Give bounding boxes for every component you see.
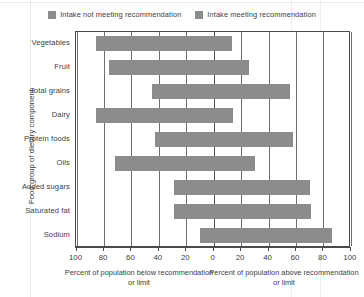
- x-tick--60: [130, 247, 131, 251]
- category-label-dairy: Dairy: [0, 110, 70, 119]
- bar-total-grains: [152, 84, 291, 99]
- category-label-saturated-fat: Saturated fat: [0, 206, 70, 215]
- chart-row: Added sugars: [76, 176, 349, 200]
- legend-item-not-meeting: Intake not meeting recommendation: [48, 10, 181, 19]
- chart-row: Oils: [76, 152, 349, 176]
- legend-item-meeting: Intake meeting recommendation: [195, 10, 315, 19]
- x-tick--20: [185, 247, 186, 251]
- chart-legend: Intake not meeting recommendation Intake…: [0, 10, 364, 19]
- category-label-total-grains: Total grains: [0, 86, 70, 95]
- x-tick-40: [268, 247, 269, 251]
- category-label-fruit: Fruit: [0, 62, 70, 71]
- category-label-added-sugars: Added sugars: [0, 182, 70, 191]
- x-axis-caption-right: Percent of population above recommendati…: [209, 268, 359, 288]
- bar-protein-foods: [155, 132, 294, 147]
- chart-row: Protein foods: [76, 128, 349, 152]
- x-axis-caption-left: Percent of population below recommendati…: [64, 268, 214, 288]
- bar-added-sugars: [174, 180, 310, 195]
- x-tick--100: [76, 247, 77, 251]
- chart-row: Vegetables: [76, 32, 349, 56]
- x-tick-100: [350, 247, 351, 251]
- plot-area: VegetablesFruitTotal grainsDairyProtein …: [75, 31, 350, 247]
- x-tick-label--80: 80: [90, 253, 116, 262]
- x-tick-20: [240, 247, 241, 251]
- chart-row: Sodium: [76, 224, 349, 248]
- x-tick--40: [158, 247, 159, 251]
- category-label-protein-foods: Protein foods: [0, 134, 70, 143]
- bar-fruit: [109, 60, 249, 75]
- bar-saturated-fat: [174, 204, 311, 219]
- bar-dairy: [96, 108, 233, 123]
- x-tick--80: [103, 247, 104, 251]
- x-tick-label--20: 20: [172, 253, 198, 262]
- category-label-vegetables: Vegetables: [0, 38, 70, 47]
- bar-sodium: [200, 228, 332, 243]
- x-tick-80: [322, 247, 323, 251]
- x-tick-label-80: 80: [309, 253, 335, 262]
- bar-oils: [115, 156, 255, 171]
- legend-label: Intake meeting recommendation: [207, 10, 315, 19]
- x-tick-60: [295, 247, 296, 251]
- x-tick-label--100: 100: [63, 253, 89, 262]
- chart-row: Saturated fat: [76, 200, 349, 224]
- category-label-sodium: Sodium: [0, 230, 70, 239]
- x-tick-label-20: 20: [227, 253, 253, 262]
- page-artifact-line: [0, 2, 364, 3]
- legend-label: Intake not meeting recommendation: [60, 10, 181, 19]
- x-tick-label--40: 40: [145, 253, 171, 262]
- x-tick-label--60: 60: [117, 253, 143, 262]
- x-tick-label-40: 40: [255, 253, 281, 262]
- x-tick-0: [213, 247, 214, 251]
- x-tick-label-100: 100: [337, 253, 363, 262]
- legend-swatch-icon: [48, 11, 56, 19]
- bar-vegetables: [96, 36, 232, 51]
- category-label-oils: Oils: [0, 158, 70, 167]
- x-tick-label-0: 0: [200, 253, 226, 262]
- legend-swatch-icon: [195, 11, 203, 19]
- chart-row: Dairy: [76, 104, 349, 128]
- chart-row: Fruit: [76, 56, 349, 80]
- gridline-100: [351, 32, 352, 246]
- chart-row: Total grains: [76, 80, 349, 104]
- x-tick-label-60: 60: [282, 253, 308, 262]
